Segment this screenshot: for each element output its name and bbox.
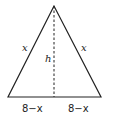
- triangle-diagram: x x h 8−x 8−x: [0, 0, 117, 122]
- base-right-text: 8−x: [68, 103, 89, 114]
- base-right-label: 8−x: [68, 103, 89, 114]
- right-side-label: x: [81, 42, 87, 53]
- height-label: h: [45, 53, 51, 64]
- base-left-label: 8−x: [22, 103, 43, 114]
- left-side-label: x: [22, 42, 28, 53]
- base-left-text: 8−x: [22, 103, 43, 114]
